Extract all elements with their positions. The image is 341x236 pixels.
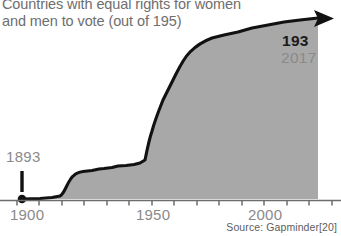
chart-figure: Countries with equal rights for women an… [0,0,341,236]
end-value-label: 193 [282,32,309,50]
area-fill [22,18,318,199]
start-year-label: 1893 [6,148,41,165]
source-note: Source: Gapminder[20] [226,221,337,233]
x-tick-label-1900: 1900 [10,206,44,223]
end-year-label: 2017 [281,49,317,67]
x-tick-label-1950: 1950 [136,206,170,223]
start-point-marker [18,195,27,204]
